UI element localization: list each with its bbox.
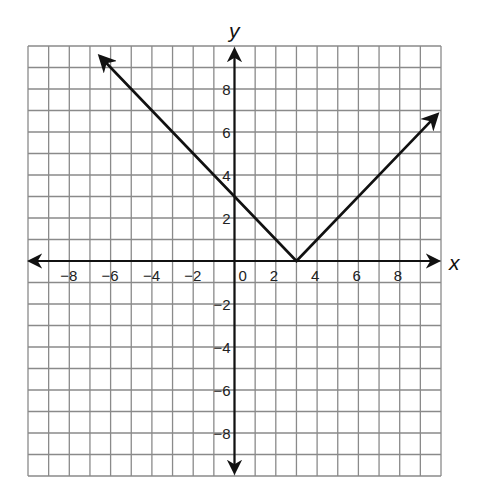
axes — [30, 50, 438, 472]
y-tick-label: −2 — [213, 296, 230, 313]
y-tick-label: 2 — [222, 210, 230, 227]
coordinate-plane: −8−6−4−2024688642−2−4−6−8 x y — [0, 0, 481, 498]
y-tick-label: −8 — [213, 425, 230, 442]
x-tick-label: −4 — [143, 267, 160, 284]
y-tick-label: 8 — [222, 81, 230, 98]
y-axis-label: y — [227, 19, 241, 42]
y-tick-label: 6 — [222, 124, 230, 141]
x-tick-label: −8 — [60, 267, 77, 284]
x-tick-label: 4 — [311, 267, 319, 284]
y-tick-label: −4 — [213, 339, 230, 356]
plot-line — [100, 57, 437, 261]
x-tick-label: 2 — [270, 267, 278, 284]
x-tick-label: −6 — [102, 267, 119, 284]
x-tick-label: 8 — [394, 267, 402, 284]
x-tick-label: −2 — [184, 267, 201, 284]
x-axis-label: x — [448, 251, 461, 274]
x-tick-label: 6 — [352, 267, 360, 284]
x-tick-label: 0 — [239, 267, 247, 284]
absolute-value-line — [100, 57, 437, 261]
y-tick-label: −6 — [213, 382, 230, 399]
y-tick-label: 4 — [222, 167, 230, 184]
